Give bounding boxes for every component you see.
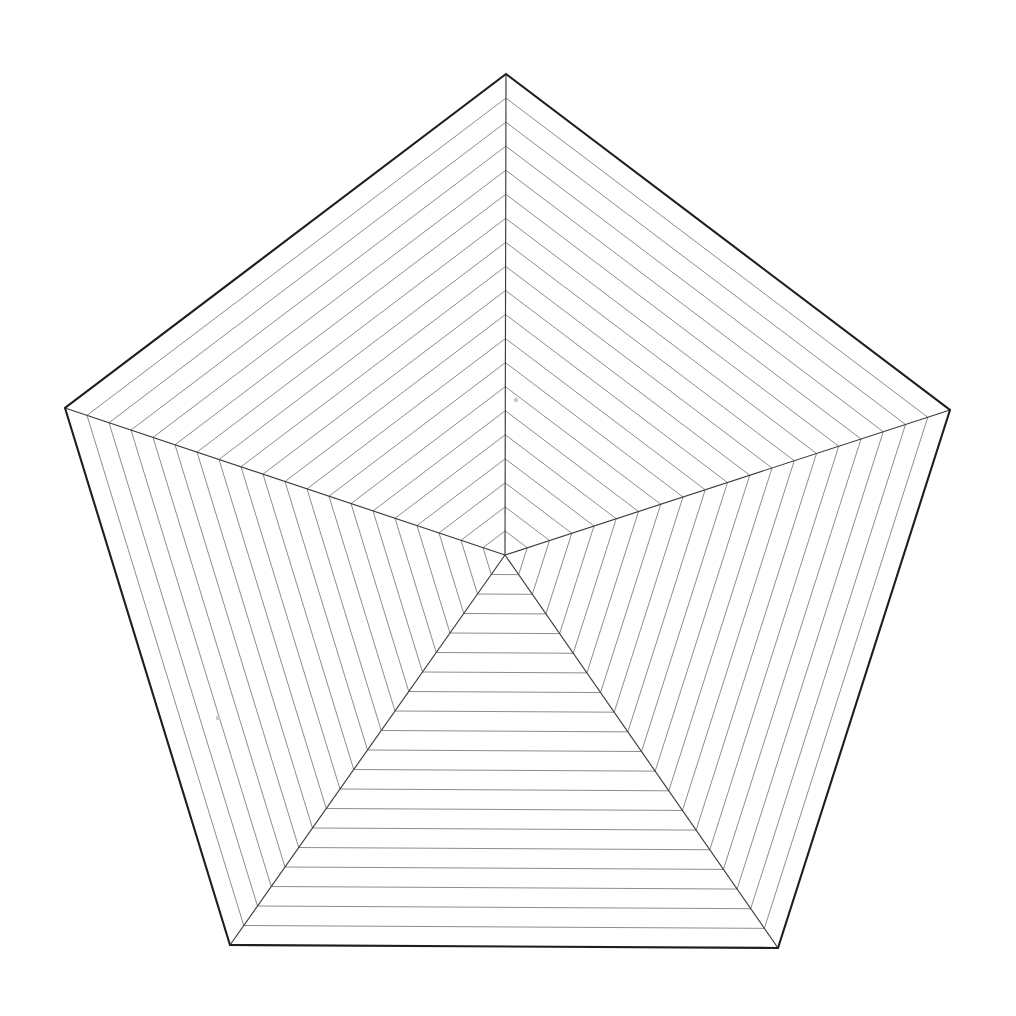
radar-grid-svg bbox=[0, 0, 1016, 1016]
speck-upper bbox=[514, 398, 518, 402]
speck-left bbox=[216, 716, 220, 720]
radar-chart-canvas bbox=[0, 0, 1016, 1016]
chart-background bbox=[0, 0, 1016, 1016]
